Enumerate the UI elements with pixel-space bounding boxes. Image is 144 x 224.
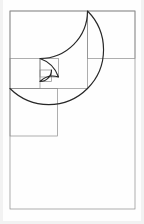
scan-edge-right [141,0,144,224]
fibonacci-spiral-diagram [0,0,144,224]
scan-edge-left [0,0,3,224]
page-background [0,0,144,224]
scan-edge-bottom [0,221,144,224]
figure-root [0,0,144,224]
